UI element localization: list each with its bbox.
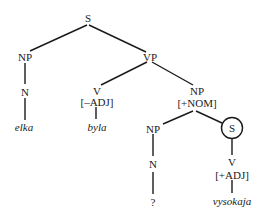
edge-s-np [30, 25, 87, 51]
feature-minus-adj: [–ADJ] [81, 96, 114, 108]
edge-vp-np [152, 62, 193, 85]
leaf-question-mark: ? [151, 196, 156, 208]
node-s-embedded-circled: S [229, 122, 235, 134]
node-np-subject: NP [18, 51, 32, 63]
feature-plus-adj: [+ADJ] [215, 169, 249, 181]
edge-npnom-s [196, 111, 222, 123]
leaf-vysokaja: vysokaja [213, 195, 252, 207]
syntax-tree: S NP N elka VP V [–ADJ] byla NP [+NOM] N… [0, 0, 262, 216]
node-vp: VP [143, 51, 157, 63]
leaf-elka: elka [15, 121, 34, 133]
leaf-byla: byla [88, 121, 107, 133]
edge-s-vp [89, 25, 146, 52]
edge-npnom-np [163, 111, 193, 124]
node-s-root: S [85, 12, 91, 24]
node-np-inner: NP [146, 123, 160, 135]
node-n-subject: N [21, 86, 29, 98]
node-v-embedded: V [228, 156, 236, 168]
node-np-predicate: NP [190, 85, 204, 97]
node-n-inner: N [149, 158, 157, 170]
feature-plus-nom: [+NOM] [177, 97, 216, 109]
edge-vp-v [101, 62, 147, 85]
